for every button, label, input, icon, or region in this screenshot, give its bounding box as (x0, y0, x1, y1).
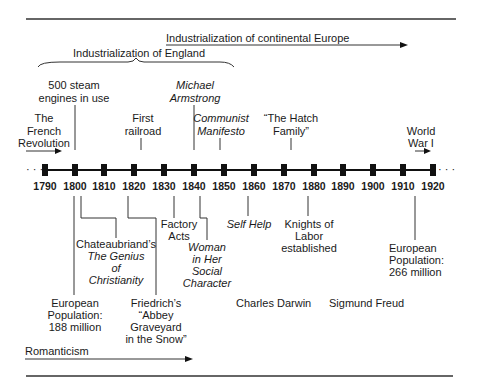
railroad-line-2: railroad (125, 125, 162, 137)
woman-line-3: Social (192, 265, 223, 277)
darwin-label: Charles Darwin (236, 297, 311, 309)
pop1800-line-2: Population: (47, 309, 102, 321)
friedrich-line-2: “Abbey (139, 309, 174, 321)
tick-1920 (430, 164, 436, 176)
friedrich-line-1: Friedrich’s (131, 297, 182, 309)
french-rev-line-3: Revolution (18, 137, 70, 149)
ellipsis-left: · · · (26, 163, 43, 175)
chateaubriand-line-3: of (111, 262, 121, 274)
romanticism-arrow-head (185, 356, 193, 362)
french-rev-line-2: French (27, 125, 61, 137)
year-1910: 1910 (391, 180, 415, 192)
year-1810: 1810 (92, 180, 116, 192)
tick-1880 (311, 164, 317, 176)
chateaubriand-line-4: Christianity (89, 274, 145, 286)
chateaubriand-connector (81, 196, 116, 238)
woman-line-1: Woman (188, 241, 226, 253)
steam-line-2: engines in use (39, 92, 110, 104)
knights-line-3: established (281, 242, 337, 254)
railroad-line-1: First (132, 112, 153, 124)
year-1850: 1850 (212, 180, 236, 192)
timeline-diagram: Industrialization of continental Europe … (0, 0, 477, 392)
year-labels: 1790 1800 1810 1820 1830 1840 1850 1860 … (33, 180, 445, 192)
year-1840: 1840 (182, 180, 206, 192)
factory-line-1: Factory (161, 218, 198, 230)
chateaubriand-line-2: The Genius (88, 250, 145, 262)
tick-1890 (340, 164, 346, 176)
year-1860: 1860 (242, 180, 266, 192)
england-label: Industrialization of England (73, 47, 205, 59)
pop1910-line-2: Population: (389, 254, 444, 266)
tick-1830 (161, 164, 167, 176)
chateaubriand-line-1: Chateaubriand’s (76, 238, 156, 250)
french-rev-line-1: The (35, 112, 54, 124)
woman-connector (200, 196, 207, 240)
year-1820: 1820 (122, 180, 146, 192)
friedrich-line-3: Graveyard (130, 321, 181, 333)
steam-line-1: 500 steam (48, 79, 99, 91)
freud-label: Sigmund Freud (329, 297, 404, 309)
tick-1820 (131, 164, 137, 176)
armstrong-line-2: Armstrong (169, 92, 222, 104)
armstrong-line-1: Michael (176, 79, 214, 91)
knights-line-2: Labor (295, 230, 323, 242)
year-1870: 1870 (272, 180, 296, 192)
tick-1790 (42, 164, 48, 176)
friedrich-line-4: in the Snow” (125, 333, 186, 345)
factory-line-2: Acts (168, 230, 190, 242)
year-1900: 1900 (361, 180, 385, 192)
hatch-line-2: Family” (273, 125, 309, 137)
pop1800-line-1: European (51, 297, 99, 309)
wwi-line-1: World (407, 125, 436, 137)
hatch-line-1: “The Hatch (264, 112, 318, 124)
selfhelp-label: Self Help (227, 218, 272, 230)
year-1890: 1890 (331, 180, 355, 192)
wwi-line-2: War I (408, 137, 434, 149)
tick-1840 (191, 164, 197, 176)
ellipsis-right: · · · (438, 163, 455, 175)
knights-line-1: Knights of (285, 218, 335, 230)
england-brace (38, 58, 234, 67)
tick-1900 (370, 164, 376, 176)
tick-1860 (251, 164, 257, 176)
year-1790: 1790 (33, 180, 57, 192)
year-1920: 1920 (421, 180, 445, 192)
tick-1870 (281, 164, 287, 176)
pop1910-line-1: European (389, 242, 437, 254)
tick-1800 (72, 164, 78, 176)
year-1800: 1800 (63, 180, 87, 192)
romanticism-label: Romanticism (25, 345, 89, 357)
tick-1910 (400, 164, 406, 176)
year-1830: 1830 (152, 180, 176, 192)
tick-1850 (221, 164, 227, 176)
year-1880: 1880 (302, 180, 326, 192)
continental-arrow-head (400, 42, 408, 48)
pop1800-line-3: 188 million (49, 321, 102, 333)
pop1910-line-3: 266 million (389, 266, 442, 278)
woman-line-2: in Her (192, 253, 223, 265)
woman-line-4: Character (183, 277, 233, 289)
tick-1810 (101, 164, 107, 176)
manifesto-line-1: Communist (193, 112, 250, 124)
continental-label: Industrialization of continental Europe (166, 32, 349, 44)
manifesto-line-2: Manifesto (197, 125, 245, 137)
